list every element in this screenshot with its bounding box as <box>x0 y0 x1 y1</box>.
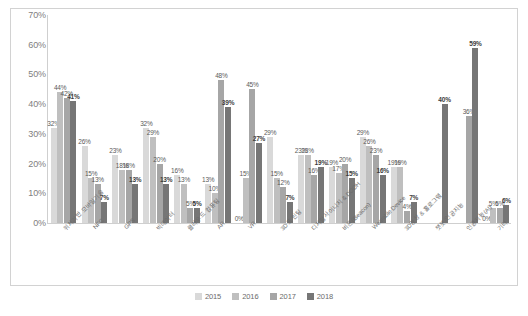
bar-2018 <box>442 104 448 223</box>
bar-2017 <box>466 116 472 223</box>
legend-swatch-icon <box>232 293 239 300</box>
y-axis-tick-label: 40% <box>28 99 46 109</box>
legend-swatch-icon <box>195 293 202 300</box>
y-axis-tick-label: 20% <box>28 159 46 169</box>
bar-2016 <box>243 178 249 223</box>
bar-value-label: 39% <box>222 99 234 106</box>
chart-plot-area: 32%44%42%41%26%15%13%7%23%18%18%13%32%29… <box>48 15 512 223</box>
bar-value-label: 26% <box>78 138 90 145</box>
bar-value-label: 13% <box>178 176 190 183</box>
bar-value-label: 23% <box>370 147 382 154</box>
bar-value-label: 23% <box>301 147 313 154</box>
y-axis: 0%10%20%30%40%50%60%70% <box>12 8 46 228</box>
bar-group: 0%5%5%6% <box>484 15 510 223</box>
bar-value-label: 5% <box>193 200 202 207</box>
bar-group: 16%13%5%5% <box>174 15 200 223</box>
y-axis-tick-label: 10% <box>28 188 46 198</box>
bar-value-label: 16% <box>376 167 388 174</box>
bar-value-label: 23% <box>109 147 121 154</box>
bar-2015 <box>391 167 397 223</box>
legend-label: 2018 <box>317 292 333 301</box>
bar-group: 13%10%48%39% <box>205 15 231 223</box>
bar-value-label: 18% <box>122 162 134 169</box>
bar-value-label: 48% <box>215 72 227 79</box>
bar-group: 32%44%42%41% <box>51 15 77 223</box>
bar-group: 23%18%18%13% <box>112 15 138 223</box>
bar-chart: 0%10%20%30%40%50%60%70% 32%44%42%41%26%1… <box>0 0 528 316</box>
y-axis-tick-label: 30% <box>28 129 46 139</box>
bar-group: 32%29%20%13% <box>143 15 169 223</box>
bar-group: 36%59% <box>453 15 479 223</box>
bar-group: 19%19%4%7% <box>391 15 417 223</box>
legend-item-2016[interactable]: 2016 <box>232 292 258 301</box>
y-axis-tick-label: 70% <box>28 10 46 20</box>
bar-value-label: 7% <box>285 194 294 201</box>
bar-2018 <box>70 101 76 223</box>
bar-group: 29%26%23%16% <box>360 15 386 223</box>
bar-2015 <box>143 128 149 223</box>
y-axis-tick-label: 50% <box>28 69 46 79</box>
bar-value-label: 29% <box>147 129 159 136</box>
legend-item-2015[interactable]: 2015 <box>195 292 221 301</box>
bar-2017 <box>249 89 255 223</box>
bar-value-label: 32% <box>140 120 152 127</box>
bar-2016 <box>57 92 63 223</box>
bar-value-label: 12% <box>277 179 289 186</box>
bar-group: 23%23%16%19% <box>298 15 324 223</box>
chart-legend: 2015201620172018 <box>0 292 528 301</box>
bar-2016 <box>366 146 372 223</box>
legend-label: 2017 <box>280 292 296 301</box>
bar-group: 0%15%45%27% <box>236 15 262 223</box>
bar-value-label: 15% <box>346 170 358 177</box>
bar-2016 <box>150 137 156 223</box>
bar-value-label: 29% <box>357 129 369 136</box>
bar-value-label: 13% <box>202 176 214 183</box>
legend-swatch-icon <box>307 293 314 300</box>
bar-value-label: 13% <box>91 176 103 183</box>
bar-value-label: 45% <box>246 81 258 88</box>
bar-value-label: 26% <box>363 138 375 145</box>
bar-group: 29%15%12%7% <box>267 15 293 223</box>
bar-2018 <box>225 107 231 223</box>
bar-value-label: 16% <box>171 167 183 174</box>
bar-value-label: 13% <box>129 176 141 183</box>
bar-value-label: 20% <box>153 156 165 163</box>
bar-2018 <box>132 184 138 223</box>
bar-2015 <box>267 137 273 223</box>
bar-value-label: 7% <box>409 194 418 201</box>
legend-item-2017[interactable]: 2017 <box>270 292 296 301</box>
bar-2015 <box>51 128 57 223</box>
bar-2018 <box>472 48 478 223</box>
bar-2017 <box>64 98 70 223</box>
bar-value-label: 59% <box>469 40 481 47</box>
legend-label: 2015 <box>205 292 221 301</box>
bar-2017 <box>311 175 317 223</box>
bar-value-label: 6% <box>502 197 511 204</box>
legend-label: 2016 <box>242 292 258 301</box>
x-axis-category-labels: 위치기반 모바일기술NFCGPS빅데이터클라우드 컴퓨팅ARVR3D 프린팅디지… <box>48 226 512 288</box>
bar-value-label: 15% <box>270 170 282 177</box>
bar-value-label: 41% <box>67 93 79 100</box>
bar-2017 <box>373 155 379 223</box>
bar-value-label: 19% <box>394 159 406 166</box>
legend-item-2018[interactable]: 2018 <box>307 292 333 301</box>
y-axis-tick-label: 0% <box>33 218 46 228</box>
bar-value-label: 29% <box>264 129 276 136</box>
bar-2016 <box>119 170 125 223</box>
bar-2018 <box>256 143 262 223</box>
bar-2017 <box>157 164 163 223</box>
bar-value-label: 40% <box>438 96 450 103</box>
y-axis-tick-label: 60% <box>28 40 46 50</box>
bar-2016 <box>305 155 311 223</box>
legend-swatch-icon <box>270 293 277 300</box>
bar-value-label: 20% <box>339 156 351 163</box>
bar-value-label: 13% <box>160 176 172 183</box>
